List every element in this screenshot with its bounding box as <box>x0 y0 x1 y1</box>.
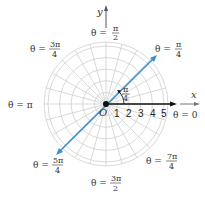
svg-text:4: 4 <box>169 162 174 171</box>
svg-text:7π: 7π <box>167 152 177 161</box>
svg-text:θ =: θ = <box>91 28 107 38</box>
svg-text:3π: 3π <box>50 40 60 49</box>
ray-theta-zero-arrowhead <box>170 102 177 107</box>
polar-diagram: y x O 1 2 3 4 5 π 4 θ = π 2 θ = 3π 4 θ =… <box>0 0 205 202</box>
svg-text:θ =: θ = <box>30 44 46 54</box>
theta-label-3pi-over-2: θ = 3π 2 <box>91 174 121 193</box>
theta-label-5pi-over-4: θ = 5π 4 <box>33 156 63 175</box>
grid-spoke <box>46 88 106 104</box>
svg-text:π: π <box>176 40 181 49</box>
radial-tick-1: 1 <box>114 108 120 119</box>
svg-text:θ =: θ = <box>33 160 49 170</box>
svg-text:2: 2 <box>113 33 118 42</box>
radial-tick-3: 3 <box>138 108 144 119</box>
x-axis-label: x <box>191 89 197 100</box>
svg-text:4: 4 <box>55 166 60 175</box>
grid-spoke <box>46 104 106 120</box>
theta-label-pi: θ = π <box>8 100 33 110</box>
x-axis-arrowhead <box>194 102 200 106</box>
radial-tick-4: 4 <box>150 108 156 119</box>
svg-text:4: 4 <box>52 50 57 59</box>
svg-text:θ =: θ = <box>155 44 171 54</box>
svg-text:θ =: θ = <box>146 156 162 166</box>
svg-text:3π: 3π <box>111 174 121 183</box>
y-axis-label: y <box>96 6 103 17</box>
grid-spoke <box>106 44 122 104</box>
radial-tick-5: 5 <box>161 108 167 119</box>
theta-label-zero: θ = 0 <box>173 110 198 120</box>
svg-text:π: π <box>113 24 118 33</box>
origin-label: O <box>99 107 107 118</box>
theta-label-pi-over-2: θ = π 2 <box>91 24 119 42</box>
grid-spoke <box>90 44 106 104</box>
theta-label-7pi-over-4: θ = 7π 4 <box>146 152 177 171</box>
angle-marker-num: π <box>123 85 128 94</box>
radial-tick-2: 2 <box>126 108 132 119</box>
svg-text:θ =: θ = <box>91 178 107 188</box>
theta-label-3pi-over-4: θ = 3π 4 <box>30 40 60 59</box>
svg-text:2: 2 <box>113 184 118 193</box>
svg-text:4: 4 <box>176 50 181 59</box>
y-axis-arrowhead <box>104 5 108 11</box>
angle-marker-den: 4 <box>123 94 128 103</box>
theta-label-pi-over-4: θ = π 4 <box>155 40 182 59</box>
svg-text:5π: 5π <box>53 156 63 165</box>
